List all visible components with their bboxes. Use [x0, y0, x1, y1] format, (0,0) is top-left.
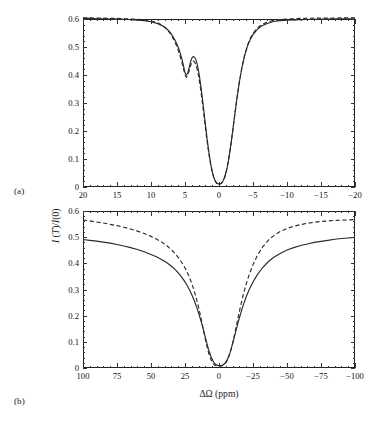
x-tick-minor: [233, 185, 234, 187]
x-tick-minor: [144, 185, 145, 187]
panel-a: [83, 19, 355, 187]
x-tick-minor: [110, 366, 111, 368]
x-tick-minor-top: [239, 211, 240, 213]
y-tick-minor: [83, 137, 85, 138]
y-tick-label: 0.1: [57, 337, 79, 347]
x-tick-label: −50: [280, 371, 293, 381]
y-tick-minor-right: [353, 120, 355, 121]
x-tick-major-top: [253, 211, 254, 216]
x-tick-minor: [273, 185, 274, 187]
y-tick-minor: [83, 120, 85, 121]
x-tick-minor-top: [246, 211, 247, 213]
panel-a-curves: [83, 19, 355, 187]
x-tick-minor: [267, 366, 268, 368]
x-tick-minor: [131, 366, 132, 368]
y-tick-minor: [83, 58, 85, 59]
x-tick-minor: [246, 185, 247, 187]
y-tick-label: 0.1: [57, 154, 79, 164]
y-tick-major: [83, 19, 87, 20]
x-tick-minor-top: [341, 211, 342, 213]
x-tick-minor: [199, 366, 200, 368]
y-tick-minor: [83, 232, 85, 233]
x-tick-minor-top: [90, 211, 91, 213]
x-tick-minor: [131, 185, 132, 187]
y-tick-major-right: [351, 342, 355, 343]
y-tick-major: [83, 187, 87, 188]
y-tick-minor: [83, 216, 85, 217]
y-tick-minor: [83, 284, 85, 285]
x-tick-minor: [348, 366, 349, 368]
y-tick-minor-right: [353, 148, 355, 149]
x-tick-minor-top: [328, 19, 329, 21]
y-tick-label: 0.3: [57, 285, 79, 295]
y-tick-major-right: [351, 290, 355, 291]
y-tick-label: 0.6: [57, 14, 79, 24]
x-tick-minor: [280, 185, 281, 187]
y-tick-minor-right: [353, 331, 355, 332]
y-tick-minor: [83, 221, 85, 222]
y-tick-minor: [83, 170, 85, 171]
x-tick-major-top: [355, 19, 356, 24]
x-tick-major: [355, 363, 356, 368]
y-tick-minor: [83, 300, 85, 301]
y-tick-minor: [83, 148, 85, 149]
x-tick-minor-top: [335, 211, 336, 213]
y-tick-minor-right: [353, 305, 355, 306]
x-tick-minor: [294, 366, 295, 368]
y-tick-minor: [83, 326, 85, 327]
x-tick-minor: [273, 366, 274, 368]
y-tick-minor: [83, 153, 85, 154]
y-tick-major-right: [351, 131, 355, 132]
y-tick-minor: [83, 305, 85, 306]
y-tick-minor-right: [353, 25, 355, 26]
x-tick-major-top: [287, 211, 288, 216]
x-tick-minor-top: [307, 19, 308, 21]
x-tick-label: −20: [348, 190, 361, 200]
x-tick-minor: [97, 366, 98, 368]
y-tick-minor-right: [353, 30, 355, 31]
x-tick-major: [117, 182, 118, 187]
x-tick-minor: [192, 185, 193, 187]
x-tick-minor-top: [280, 19, 281, 21]
x-tick-minor: [335, 366, 336, 368]
x-tick-minor: [171, 366, 172, 368]
y-tick-minor-right: [353, 176, 355, 177]
x-tick-minor: [226, 366, 227, 368]
y-tick-minor-right: [353, 326, 355, 327]
y-tick-label: 0.5: [57, 42, 79, 52]
x-tick-minor-top: [226, 211, 227, 213]
y-tick-minor-right: [353, 41, 355, 42]
y-tick-minor-right: [353, 137, 355, 138]
y-tick-minor: [83, 253, 85, 254]
y-tick-major: [83, 368, 87, 369]
x-tick-minor: [158, 366, 159, 368]
y-tick-major: [83, 159, 87, 160]
x-tick-minor: [314, 185, 315, 187]
y-tick-minor: [83, 295, 85, 296]
y-tick-minor: [83, 30, 85, 31]
x-tick-major-top: [219, 19, 220, 24]
y-tick-major: [83, 237, 87, 238]
x-tick-minor: [301, 185, 302, 187]
x-tick-minor-top: [307, 211, 308, 213]
x-tick-minor-top: [131, 19, 132, 21]
y-tick-minor: [83, 358, 85, 359]
x-tick-minor: [97, 185, 98, 187]
y-tick-major-right: [351, 103, 355, 104]
curve-dashed: [83, 220, 355, 367]
x-tick-minor-top: [348, 19, 349, 21]
x-tick-major: [253, 363, 254, 368]
x-tick-minor: [158, 185, 159, 187]
y-tick-minor-right: [353, 352, 355, 353]
y-tick-label: 0.3: [57, 98, 79, 108]
y-tick-minor: [83, 53, 85, 54]
y-tick-minor-right: [353, 81, 355, 82]
x-tick-minor-top: [199, 211, 200, 213]
x-tick-major: [321, 182, 322, 187]
x-tick-minor: [260, 185, 261, 187]
y-tick-major-right: [351, 237, 355, 238]
x-tick-minor: [165, 185, 166, 187]
x-tick-minor: [137, 366, 138, 368]
panel-b-label: (b): [14, 396, 25, 406]
y-tick-major-right: [351, 75, 355, 76]
